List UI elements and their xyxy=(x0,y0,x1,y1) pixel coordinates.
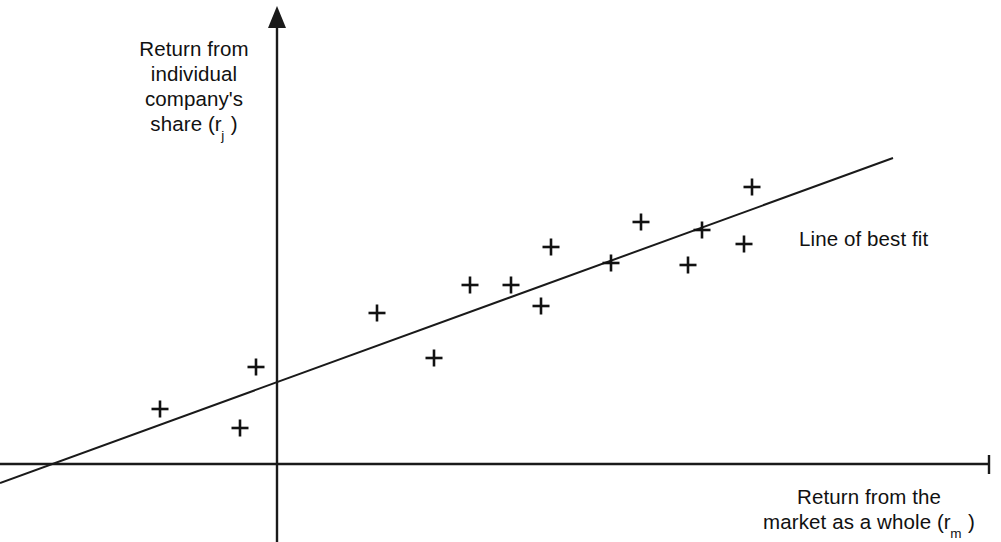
scatter-marker-group xyxy=(152,179,761,437)
y-axis-symbol-suffix: ) xyxy=(225,112,238,135)
y-axis-label-line-4: share (rj ) xyxy=(108,111,280,144)
line-of-best-fit-annotation: Line of best fit xyxy=(799,226,928,251)
scatter-point xyxy=(603,255,620,272)
x-axis-symbol-prefix: market as a whole (r xyxy=(763,510,951,533)
scatter-point xyxy=(744,179,761,196)
scatter-point xyxy=(248,359,265,376)
y-axis-arrowhead-icon xyxy=(268,6,286,28)
x-axis-symbol-subscript: m xyxy=(950,526,961,541)
y-axis-label: Return from individual company's share (… xyxy=(108,36,280,144)
x-axis-symbol-suffix: ) xyxy=(962,510,975,533)
y-axis-symbol-subscript: j xyxy=(221,128,224,143)
scatter-point xyxy=(369,305,386,322)
y-axis-label-line-3: company's xyxy=(108,86,280,111)
scatter-point xyxy=(152,401,169,418)
scatter-point xyxy=(533,298,550,315)
scatter-point xyxy=(232,420,249,437)
y-axis-label-line-2: individual xyxy=(108,61,280,86)
line-of-best-fit xyxy=(0,158,893,483)
x-axis-label-line-1: Return from the xyxy=(744,484,994,509)
scatter-point xyxy=(694,222,711,239)
y-axis-symbol-prefix: share (r xyxy=(150,112,221,135)
x-axis-label-line-2: market as a whole (rm ) xyxy=(744,509,994,542)
x-axis-label: Return from the market as a whole (rm ) xyxy=(744,484,994,542)
scatter-point xyxy=(736,236,753,253)
scatter-diagram-figure: Return from individual company's share (… xyxy=(0,0,1001,542)
scatter-point xyxy=(462,277,479,294)
scatter-point xyxy=(503,277,520,294)
scatter-point xyxy=(633,214,650,231)
scatter-point xyxy=(543,239,560,256)
y-axis-label-line-1: Return from xyxy=(108,36,280,61)
scatter-point xyxy=(680,257,697,274)
scatter-point xyxy=(426,350,443,367)
